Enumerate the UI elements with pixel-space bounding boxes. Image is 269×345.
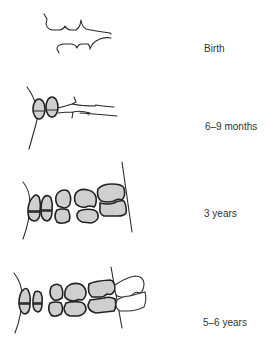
lower-second-molar (100, 201, 126, 216)
stage-label-6-9-months: 6–9 months (205, 121, 257, 132)
lower-first-molar (64, 302, 86, 316)
lower-canine (55, 209, 70, 223)
incisor-upper-2 (46, 97, 58, 117)
upper-lateral-incisor (41, 196, 52, 210)
lower-first-molar (77, 209, 98, 223)
upper-first-molar (75, 189, 97, 207)
lower-gum-line (58, 111, 117, 118)
stage-5-6-years-drawing (14, 267, 146, 333)
stage-3-years-drawing (23, 162, 132, 239)
upper-canine (50, 284, 63, 300)
stage-label-5-6-years: 5–6 years (203, 317, 247, 328)
lower-lateral-incisor (41, 211, 52, 221)
upper-canine (56, 190, 71, 208)
lower-canine (49, 302, 63, 316)
upper-central-incisor (19, 289, 30, 304)
dentition-diagram (0, 0, 269, 345)
stage-birth-drawing (44, 14, 111, 53)
lower-central-incisor (28, 212, 40, 221)
incisor-upper-1 (33, 99, 45, 119)
upper-gum-line (44, 14, 111, 34)
upper-first-molar (65, 283, 86, 301)
upper-second-molar (97, 184, 124, 202)
upper-lateral-incisor (33, 291, 42, 303)
lower-gum-line (57, 38, 111, 53)
stage-6-9-months-drawing (27, 87, 117, 149)
stage-label-birth: Birth (204, 43, 225, 54)
lower-lateral-incisor (33, 304, 42, 312)
upper-second-molar (88, 280, 115, 297)
stage-label-3-years: 3 years (204, 208, 237, 219)
upper-gum-line (58, 97, 114, 108)
lower-second-molar (88, 297, 116, 313)
